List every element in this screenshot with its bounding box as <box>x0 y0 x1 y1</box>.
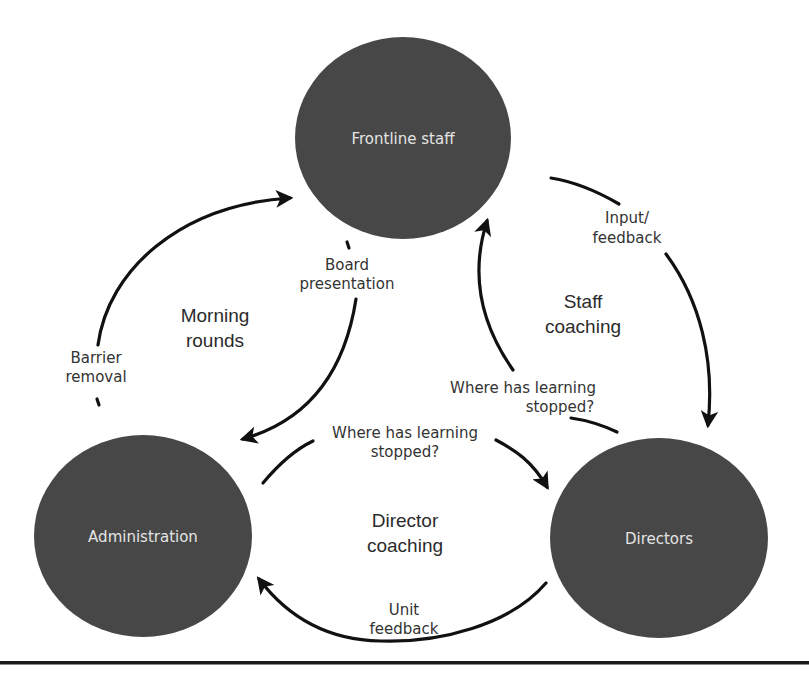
edge-label-learning-right-line2: stopped? <box>526 398 595 416</box>
arrow-learning-bottom-icon <box>496 440 547 487</box>
arrow-barrier-removal-tail-icon <box>97 399 99 405</box>
edge-barrier-removal: Barrier removal <box>65 198 290 405</box>
arrow-board-presentation-icon <box>243 299 356 439</box>
edge-label-barrier-line2: removal <box>65 368 126 386</box>
edge-label-learning-bottom-line2: stopped? <box>371 443 440 461</box>
edge-label-learning-bottom-line1: Where has learning <box>332 424 478 442</box>
edge-label-learning-right-line1: Where has learning <box>450 379 596 397</box>
edge-label-barrier-line1: Barrier <box>70 349 122 367</box>
edge-where-learning-stopped-bottom: Where has learning stopped? <box>263 424 547 487</box>
edge-label-unit-line2: feedback <box>370 620 439 638</box>
node-label-administration: Administration <box>88 528 198 546</box>
arrow-learning-bottom-tail-icon <box>263 441 313 483</box>
node-directors: Directors <box>550 438 768 638</box>
edge-label-input-line1: Input/ <box>605 209 650 227</box>
arrow-input-feedback-tail-icon <box>551 178 619 204</box>
loop-label-director-line1: Director <box>372 510 439 531</box>
edge-label-input-line2: feedback <box>593 229 662 247</box>
arrow-board-presentation-tail-icon <box>347 242 349 248</box>
loop-label-director-line2: coaching <box>367 535 443 556</box>
bottom-rule-divider <box>0 661 809 665</box>
node-administration: Administration <box>34 435 252 637</box>
loop-morning-rounds: Morning rounds <box>181 305 250 351</box>
arrow-learning-right-icon <box>479 221 513 370</box>
loop-label-staff-line1: Staff <box>564 291 603 312</box>
edge-label-unit-line1: Unit <box>389 601 420 619</box>
loop-director-coaching: Director coaching <box>367 510 443 556</box>
edge-label-board-line1: Board <box>325 256 369 274</box>
leadership-cycle-diagram: Frontline staff Administration Directors… <box>0 0 809 680</box>
loop-label-staff-line2: coaching <box>545 316 621 337</box>
loop-label-morning-line2: rounds <box>186 330 244 351</box>
node-label-directors: Directors <box>625 530 693 548</box>
edge-board-presentation: Board presentation <box>243 242 394 439</box>
node-frontline-staff: Frontline staff <box>295 37 511 239</box>
arrow-input-feedback-icon <box>666 254 710 425</box>
node-label-frontline-staff: Frontline staff <box>351 130 455 148</box>
arrow-learning-right-tail-icon <box>571 418 617 432</box>
loop-staff-coaching: Staff coaching <box>545 291 621 337</box>
loop-label-morning-line1: Morning <box>181 305 250 326</box>
edge-label-board-line2: presentation <box>300 275 395 293</box>
edge-unit-feedback: Unit feedback <box>259 579 546 641</box>
